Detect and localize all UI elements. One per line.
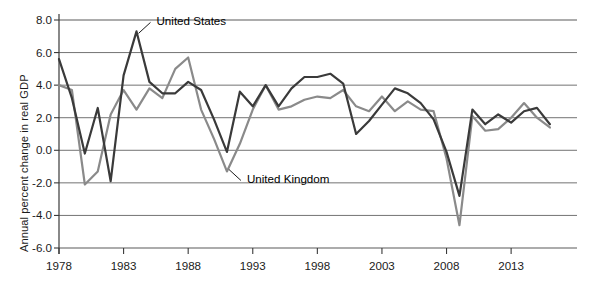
y-tick-label: 8.0 <box>14 14 52 26</box>
y-tick-label: -6.0 <box>14 242 52 254</box>
x-tick-label: 2013 <box>486 260 536 272</box>
gdp-growth-line-chart: Annual percent change in real GDP 8.06.0… <box>0 0 603 293</box>
series-line-united-states <box>59 31 550 195</box>
x-tick-label: 2003 <box>357 260 407 272</box>
x-tick-label: 1988 <box>163 260 213 272</box>
y-tick-label: 2.0 <box>14 112 52 124</box>
x-tick-label: 1998 <box>292 260 342 272</box>
data-series-lines <box>59 31 550 225</box>
x-tick-label: 2008 <box>422 260 472 272</box>
gridlines <box>59 20 577 248</box>
series-annotation-label: United Kingdom <box>247 173 330 185</box>
annotation-leader-lines <box>139 22 241 180</box>
y-tick-label: -4.0 <box>14 209 52 221</box>
y-axis-label: Annual percent change in real GDP <box>18 74 30 252</box>
leader-line <box>229 169 241 180</box>
leader-line <box>139 22 151 33</box>
y-tick-label: 4.0 <box>14 79 52 91</box>
series-annotation-label: United States <box>157 15 227 27</box>
axis-tick-marks <box>54 20 511 254</box>
plot-area <box>0 0 603 293</box>
y-tick-label: -2.0 <box>14 177 52 189</box>
x-tick-label: 1993 <box>228 260 278 272</box>
x-tick-label: 1983 <box>99 260 149 272</box>
y-tick-label: 6.0 <box>14 47 52 59</box>
x-tick-label: 1978 <box>34 260 84 272</box>
y-tick-label: 0.0 <box>14 144 52 156</box>
series-line-united-kingdom <box>59 57 550 225</box>
